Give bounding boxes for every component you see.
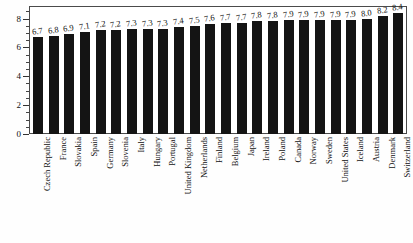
bar[interactable] [64,34,74,134]
bar-item[interactable]: 7.9 [315,7,325,134]
y-axis: 02468 [0,0,29,140]
bar[interactable] [205,24,215,134]
x-axis-label-slot: Denmark [378,137,388,241]
bar-value-label: 7.2 [110,19,122,29]
bar-value-label: 7.9 [313,9,325,19]
bar[interactable] [315,20,325,134]
bar[interactable] [362,19,372,134]
x-axis-label-slot: Slovenia [111,137,121,241]
bar-value-label: 7.4 [172,17,184,27]
bar[interactable] [237,23,247,134]
bar-value-label: 8.2 [376,5,388,15]
bar-item[interactable]: 7.1 [80,7,90,134]
bar-value-label: 7.3 [157,18,169,28]
bar-value-label: 8.0 [360,8,372,18]
bar-series: 6.76.86.97.17.27.27.37.37.37.47.57.67.77… [30,7,406,134]
bar[interactable] [111,30,121,134]
bar-item[interactable]: 8.2 [378,7,388,134]
bar-item[interactable]: 8.0 [362,7,372,134]
bar[interactable] [393,13,403,134]
bar-item[interactable]: 7.4 [174,7,184,134]
bar-item[interactable]: 7.3 [158,7,168,134]
bar[interactable] [331,20,341,134]
bar-item[interactable]: 7.2 [111,7,121,134]
bar-value-label: 7.5 [188,15,200,25]
bar-item[interactable]: 7.3 [127,7,137,134]
bar-value-label: 6.9 [63,24,75,34]
bar[interactable] [252,21,262,134]
bar-value-label: 7.1 [78,21,90,31]
bar-item[interactable]: 6.8 [49,7,59,134]
bar-value-label: 7.7 [235,12,247,22]
x-axis-label-slot: Hungary [143,137,153,241]
bar-value-label: 7.6 [204,14,216,24]
bar-value-label: 7.3 [125,18,137,28]
bar-item[interactable]: 7.9 [284,7,294,134]
y-axis-tick-major [23,134,29,135]
bar-value-label: 7.9 [298,9,310,19]
bar-item[interactable]: 7.6 [205,7,215,134]
bar-value-label: 7.2 [94,19,106,29]
x-axis-label-slot: United States [331,137,341,241]
bar-item[interactable]: 7.8 [252,7,262,134]
bar[interactable] [158,29,168,134]
x-axis-label-slot: Spain [80,137,90,241]
bar-value-label: 7.8 [266,11,278,21]
bar-item[interactable]: 6.7 [33,7,43,134]
bar-item[interactable]: 7.7 [237,7,247,134]
bar[interactable] [174,27,184,134]
x-axis-label-slot: Italy [127,137,137,241]
bar[interactable] [143,29,153,134]
x-axis-label-slot: Finland [205,137,215,241]
y-axis-tick-label: 2 [17,101,22,110]
bar-value-label: 7.7 [219,12,231,22]
x-axis-category-labels: Czech RepublicFranceSlovakiaSpainGermany… [30,137,406,242]
y-axis-tick-label: 0 [17,130,22,139]
x-axis-label-slot: Austria [362,137,372,241]
bar-item[interactable]: 7.8 [268,7,278,134]
x-axis-label-slot: Iceland [346,137,356,241]
bar[interactable] [284,20,294,134]
x-axis-label-slot: Canada [284,137,294,241]
x-axis-label-slot: United Kingdom [174,137,184,241]
bar[interactable] [33,37,43,134]
x-axis-label-slot: Sweden [315,137,325,241]
x-axis-label-slot: Czech Republic [33,137,43,241]
bar-item[interactable]: 7.7 [221,7,231,134]
x-axis-category-label: Switzerland [402,137,412,178]
bar[interactable] [299,20,309,134]
bar[interactable] [190,26,200,134]
bar[interactable] [96,30,106,134]
bar-item[interactable]: 6.9 [64,7,74,134]
chart-root: 02468 6.76.86.97.17.27.27.37.37.37.47.57… [0,0,413,243]
bar-value-label: 6.7 [31,27,43,37]
x-axis-label-slot: Slovakia [64,137,74,241]
bar-item[interactable]: 8.4 [393,7,403,134]
bar-item[interactable]: 7.9 [299,7,309,134]
bar-item[interactable]: 7.9 [331,7,341,134]
bar[interactable] [268,21,278,134]
x-axis-label-slot: Netherlands [190,137,200,241]
bar[interactable] [127,29,137,134]
bar[interactable] [49,36,59,134]
bar[interactable] [378,16,388,134]
bar-value-label: 7.8 [251,11,263,21]
x-axis-label-slot: France [49,137,59,241]
bar-item[interactable]: 7.3 [143,7,153,134]
y-axis-tick-label: 8 [17,14,22,23]
bar-value-label: 7.9 [329,9,341,19]
bar-item[interactable]: 7.5 [190,7,200,134]
bar-item[interactable]: 7.2 [96,7,106,134]
x-axis-label-slot: Ireland [252,137,262,241]
x-axis-label-slot: Belgium [221,137,231,241]
bar[interactable] [221,23,231,134]
bar[interactable] [346,20,356,134]
bar-item[interactable]: 7.9 [346,7,356,134]
bar-value-label: 6.8 [47,25,59,35]
bar-value-label: 7.9 [345,9,357,19]
x-axis-label-slot: Norway [299,137,309,241]
bar[interactable] [80,32,90,134]
x-axis-label-slot: Japan [237,137,247,241]
x-axis-label-slot: Poland [268,137,278,241]
y-axis-tick-label: 6 [17,43,22,52]
